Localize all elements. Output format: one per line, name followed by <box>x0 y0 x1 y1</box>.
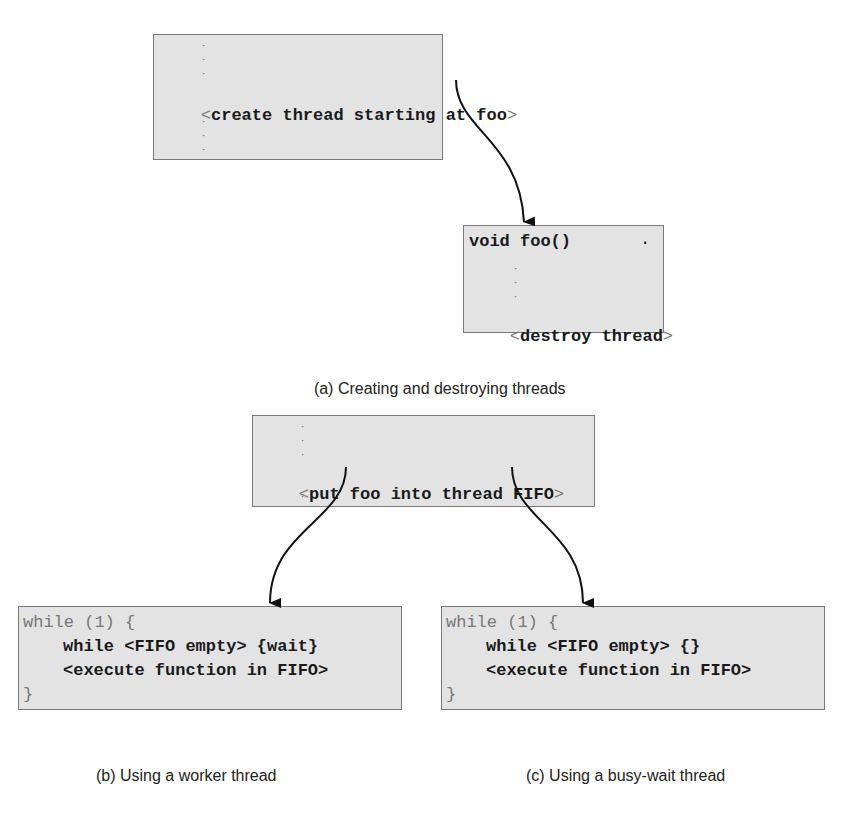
arrow-fifo-to-worker <box>270 467 346 603</box>
arrow-create-to-foo <box>456 80 524 222</box>
arrow-fifo-to-busywait <box>512 467 583 603</box>
arrows-layer <box>0 0 845 813</box>
